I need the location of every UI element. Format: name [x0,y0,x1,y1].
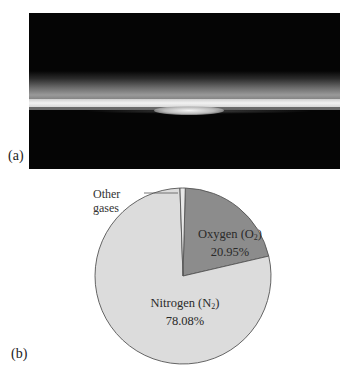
oxygen-label: Oxygen (O2) 20.95% [190,227,270,260]
pie-slices [95,188,271,364]
panel-label-b: (b) [11,346,27,362]
nitrogen-value: 78.08% [166,314,205,328]
other-gases-label: Other gases [93,187,120,215]
nitrogen-label: Nitrogen (N2) 78.08% [130,296,240,329]
oxygen-value: 20.95% [211,245,250,259]
